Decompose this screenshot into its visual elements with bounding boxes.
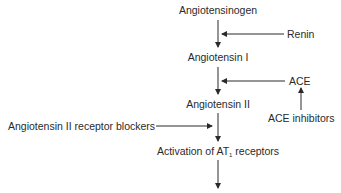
node-activation-at1: Activation of AT1 receptors bbox=[157, 145, 279, 161]
modifier-ace-inhibitors: ACE inhibitors bbox=[268, 112, 335, 124]
modifier-arb: Angiotensin II receptor blockers bbox=[8, 120, 155, 132]
node-angiotensin-i: Angiotensin I bbox=[188, 51, 249, 63]
node-angiotensin-ii: Angiotensin II bbox=[186, 98, 250, 110]
activation-prefix: Activation of AT bbox=[157, 145, 229, 157]
modifier-ace: ACE bbox=[289, 75, 311, 87]
modifier-renin: Renin bbox=[287, 28, 314, 40]
node-angiotensinogen: Angiotensinogen bbox=[179, 4, 257, 16]
activation-suffix: receptors bbox=[232, 145, 279, 157]
